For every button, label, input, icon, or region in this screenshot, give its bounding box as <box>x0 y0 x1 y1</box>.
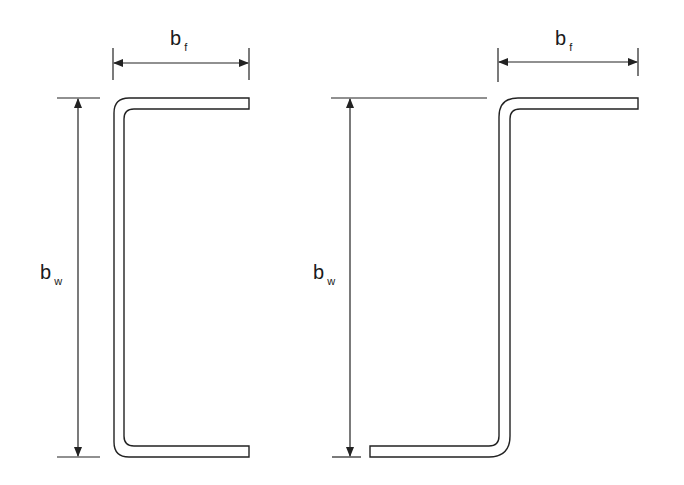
z-section-outline <box>370 98 638 457</box>
c-section-outline <box>114 98 249 457</box>
right-web-height-label: bw <box>313 262 335 287</box>
diagram-canvas: bf bw bf bw <box>0 0 684 485</box>
right-flange-width-label: bf <box>555 28 572 53</box>
c-section-profile <box>57 48 249 457</box>
left-flange-width-label: bf <box>170 28 187 53</box>
profiles-drawing <box>0 0 684 485</box>
left-web-height-label: bw <box>40 262 62 287</box>
z-section-profile <box>331 48 638 457</box>
